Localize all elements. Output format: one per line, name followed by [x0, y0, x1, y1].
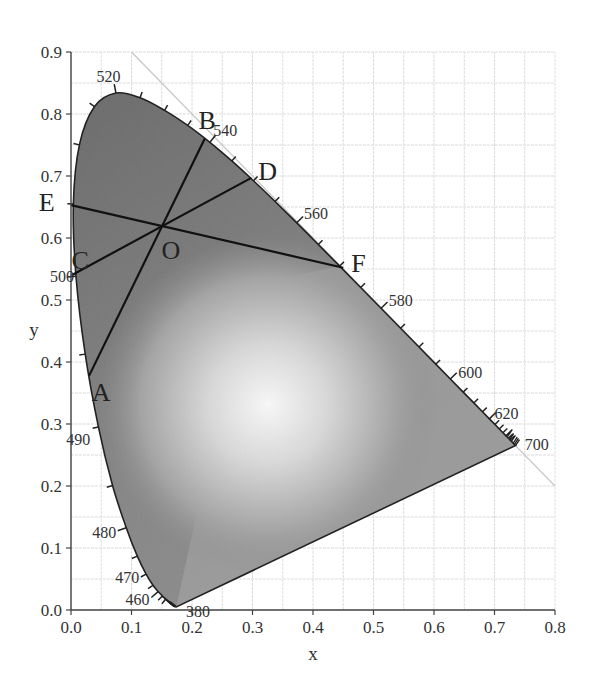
point-label-c: C — [71, 246, 88, 275]
wavelength-tick — [140, 92, 142, 98]
wavelength-label-600: 600 — [458, 364, 482, 381]
wavelength-label-490: 490 — [66, 431, 90, 448]
wavelength-label-560: 560 — [304, 205, 328, 222]
wavelength-tick — [151, 592, 158, 598]
x-tick-label: 0.7 — [484, 618, 506, 637]
point-label-o: O — [161, 236, 180, 265]
wavelength-tick — [381, 302, 387, 308]
y-tick-label: 0.1 — [41, 539, 62, 558]
wavelength-tick — [148, 585, 153, 588]
y-tick-label: 0.9 — [41, 43, 62, 62]
y-tick-label: 0.6 — [41, 229, 62, 248]
wavelength-tick — [90, 103, 95, 106]
point-label-b: B — [198, 106, 215, 135]
wavelength-tick — [419, 343, 423, 347]
y-tick-label: 0.8 — [41, 105, 62, 124]
point-label-d: D — [258, 157, 277, 186]
wavelength-label-620: 620 — [495, 405, 519, 422]
wavelength-tick — [482, 408, 486, 412]
wavelength-tick — [141, 574, 146, 577]
wavelength-tick — [165, 105, 168, 110]
x-tick-label: 0.6 — [423, 618, 444, 637]
y-tick-label: 0.5 — [41, 291, 62, 310]
spectral-locus-region — [60, 40, 560, 640]
y-axis-title: y — [29, 319, 39, 340]
x-tick-label: 0.2 — [181, 618, 202, 637]
wavelength-label-520: 520 — [97, 68, 121, 85]
y-tick-label: 0.3 — [41, 415, 62, 434]
y-tick-label: 0.7 — [41, 167, 63, 186]
wavelength-tick — [361, 283, 365, 287]
wavelength-label-480: 480 — [92, 524, 116, 541]
y-tick-label: 0.4 — [41, 353, 63, 372]
wavelength-label-500: 500 — [50, 268, 74, 285]
wavelength-tick — [318, 240, 322, 244]
point-label-f: F — [351, 249, 365, 278]
wavelength-tick — [114, 84, 116, 93]
x-tick-label: 0.0 — [60, 618, 81, 637]
y-tick-label: 0.0 — [41, 601, 62, 620]
point-label-e: E — [39, 188, 55, 217]
wavelength-tick — [79, 354, 85, 355]
x-tick-label: 0.3 — [242, 618, 263, 637]
wavelength-tick — [450, 373, 456, 379]
wavelength-label-580: 580 — [389, 292, 413, 309]
wavelength-tick — [118, 528, 126, 531]
wavelength-tick — [503, 429, 507, 433]
wavelength-tick — [74, 144, 80, 145]
x-tick-label: 0.4 — [302, 618, 324, 637]
wavelength-tick — [188, 121, 191, 126]
wavelength-label-460: 460 — [126, 591, 150, 608]
y-tick-label: 0.2 — [41, 477, 62, 496]
wavelength-tick — [297, 216, 303, 222]
wavelength-tick — [132, 556, 138, 558]
point-label-a: A — [92, 378, 111, 407]
chromaticity-chart: 0.00.10.20.30.40.50.60.70.80.00.10.20.30… — [0, 0, 601, 690]
x-tick-label: 0.1 — [121, 618, 142, 637]
wavelength-label-470: 470 — [115, 569, 139, 586]
x-tick-label: 0.5 — [363, 618, 384, 637]
wavelength-label-700: 700 — [525, 436, 549, 453]
x-tick-label: 0.8 — [544, 618, 565, 637]
wavelength-label-540: 540 — [213, 122, 237, 139]
x-axis-title: x — [308, 643, 318, 664]
wavelength-tick — [474, 399, 478, 403]
wavelength-tick — [499, 425, 503, 429]
wavelength-tick — [93, 427, 99, 428]
wavelength-label-380: 380 — [186, 603, 210, 620]
